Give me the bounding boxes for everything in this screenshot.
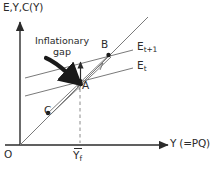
point-C-label: C (44, 105, 51, 116)
point-B-marker (106, 53, 110, 57)
curve-label-e-t-plus-1-sub: t+1 (144, 45, 157, 54)
curve-label-e-t-core: E (137, 59, 144, 71)
inflationary-gap-label: Inflationary gap (22, 36, 102, 58)
curve-label-e-t-plus-1: Et+1 (137, 41, 157, 53)
point-A-label: A (82, 80, 89, 91)
curve-label-e-t-plus-1-core: E (137, 40, 144, 52)
y-axis-label: E,Y,C(Y) (3, 2, 43, 13)
x-axis-label: Y (=PQ) (170, 138, 210, 149)
origin-label: O (4, 149, 12, 160)
curve-label-e-t: Et (137, 60, 146, 72)
point-B-label: B (101, 39, 108, 50)
inflationary-gap-diagram: E,Y,C(Y) Y (=PQ) O Yf Et+1 Et A B C Infl… (0, 0, 217, 170)
curve-label-e-t-sub: t (144, 64, 147, 73)
gap-callout-arrow (46, 58, 72, 77)
yf-subscript: f (79, 154, 81, 163)
full-employment-output-label: Yf (73, 148, 82, 162)
inflationary-gap-label-line2: gap (22, 47, 102, 58)
